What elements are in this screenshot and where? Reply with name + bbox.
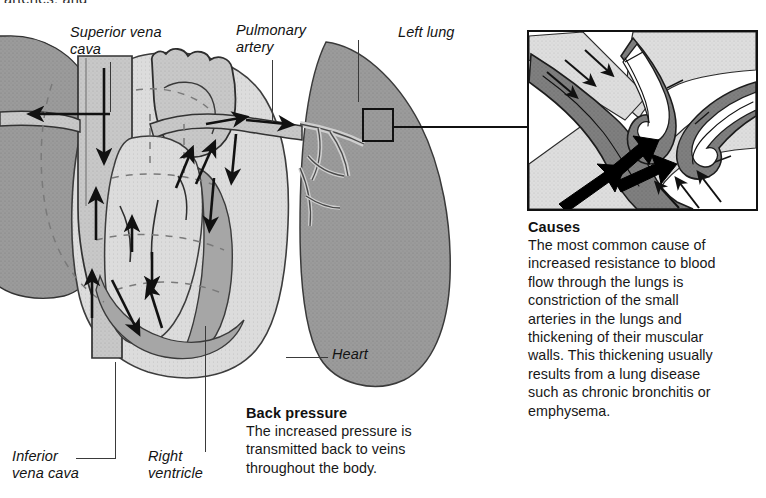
label-superior-vena-cava: Superior vena cava bbox=[70, 24, 162, 57]
inset-drawing bbox=[529, 32, 756, 209]
figure-canvas: arteries, and bbox=[0, 0, 766, 498]
text-block-back-pressure: Back pressure The increased pressure is … bbox=[246, 404, 482, 477]
leader-superior-vena-cava bbox=[110, 62, 111, 112]
inset-connector-line bbox=[392, 126, 529, 128]
label-left-lung: Left lung bbox=[398, 24, 455, 41]
left-lung-shape bbox=[300, 42, 450, 386]
label-heart: Heart bbox=[332, 346, 368, 363]
leader-right-ventricle bbox=[205, 326, 206, 452]
leader-inferior-vena-cava-horizontal bbox=[76, 458, 116, 459]
heart-lungs-illustration bbox=[0, 28, 520, 458]
detail-marker-box bbox=[362, 108, 394, 142]
back-pressure-body: The increased pressure is transmitted ba… bbox=[246, 422, 482, 477]
leader-pulmonary-artery bbox=[272, 60, 273, 122]
leader-heart bbox=[286, 357, 328, 358]
label-inferior-vena-cava: Inferior vena cava bbox=[12, 448, 79, 481]
causes-body: The most common cause of increased resis… bbox=[528, 236, 766, 420]
back-pressure-title: Back pressure bbox=[246, 404, 482, 422]
inset-constricted-artery bbox=[527, 30, 758, 211]
label-right-ventricle: Right ventricle bbox=[148, 448, 203, 481]
leader-left-lung bbox=[358, 40, 359, 102]
leader-inferior-vena-cava-vertical bbox=[115, 362, 116, 459]
causes-title: Causes bbox=[528, 218, 766, 236]
label-pulmonary-artery: Pulmonary artery bbox=[236, 22, 306, 55]
clipped-top-text: arteries, and bbox=[4, 0, 87, 3]
text-block-causes: Causes The most common cause of increase… bbox=[528, 218, 766, 420]
